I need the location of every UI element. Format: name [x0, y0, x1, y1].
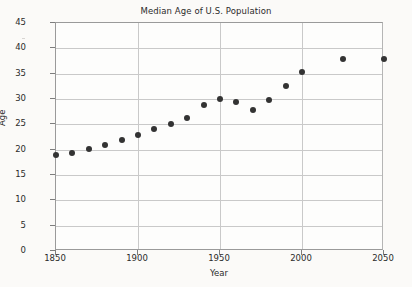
data-point	[250, 107, 256, 113]
x-tick-mark	[219, 250, 220, 255]
data-point	[266, 97, 272, 103]
plot-area	[55, 22, 383, 250]
y-tick-label: 0	[0, 245, 26, 255]
gridline-horizontal	[56, 226, 382, 227]
y-tick-label: 15	[0, 169, 26, 179]
data-point	[53, 152, 59, 158]
data-point	[184, 115, 190, 121]
gridline-horizontal	[56, 175, 382, 176]
gridline-horizontal	[56, 200, 382, 201]
y-tick-label: 25	[0, 118, 26, 128]
y-tick-label: 40	[0, 42, 26, 52]
data-point	[381, 56, 387, 62]
data-point	[168, 121, 174, 127]
data-point	[119, 137, 125, 143]
gridline-horizontal	[56, 124, 382, 125]
data-point	[69, 150, 75, 156]
y-tick-label: 5	[0, 220, 26, 230]
x-tick-mark	[383, 250, 384, 255]
data-point	[233, 99, 239, 105]
data-point	[86, 146, 92, 152]
y-tick-label: 45	[0, 17, 26, 27]
data-point	[283, 83, 289, 89]
y-tick-label: 35	[0, 68, 26, 78]
data-point	[217, 96, 223, 102]
data-point	[102, 142, 108, 148]
data-point	[340, 56, 346, 62]
chart-figure: Median Age of U.S. Population Age Year 0…	[0, 0, 412, 287]
gridline-horizontal	[56, 48, 382, 49]
gridline-vertical	[302, 23, 303, 249]
x-tick-mark	[55, 250, 56, 255]
x-tick-mark	[301, 250, 302, 255]
data-point	[299, 69, 305, 75]
y-tick-label: 20	[0, 144, 26, 154]
gridline-horizontal	[56, 150, 382, 151]
chart-title: Median Age of U.S. Population	[0, 6, 412, 16]
x-tick-mark	[137, 250, 138, 255]
gridline-vertical	[220, 23, 221, 249]
data-point	[135, 132, 141, 138]
x-axis-label: Year	[55, 268, 383, 278]
data-point	[201, 102, 207, 108]
data-point	[151, 126, 157, 132]
scan-speck	[22, 38, 25, 39]
gridline-horizontal	[56, 74, 382, 75]
y-tick-label: 10	[0, 194, 26, 204]
y-tick-label: 30	[0, 93, 26, 103]
